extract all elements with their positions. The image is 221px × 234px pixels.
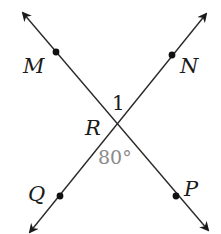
- line-nq: [30, 14, 206, 232]
- point-q-dot: [57, 193, 64, 200]
- label-n: N: [179, 54, 199, 78]
- point-n-dot: [169, 52, 176, 59]
- intersecting-lines-diagram: M N Q P R 1 80°: [0, 0, 221, 234]
- label-r: R: [84, 116, 101, 140]
- label-m: M: [22, 54, 45, 78]
- label-p: P: [183, 177, 199, 201]
- label-q: Q: [28, 182, 45, 206]
- point-m-dot: [53, 49, 60, 56]
- point-p-dot: [173, 193, 180, 200]
- angle-1-label: 1: [112, 91, 125, 115]
- angle-80-label: 80°: [98, 146, 132, 168]
